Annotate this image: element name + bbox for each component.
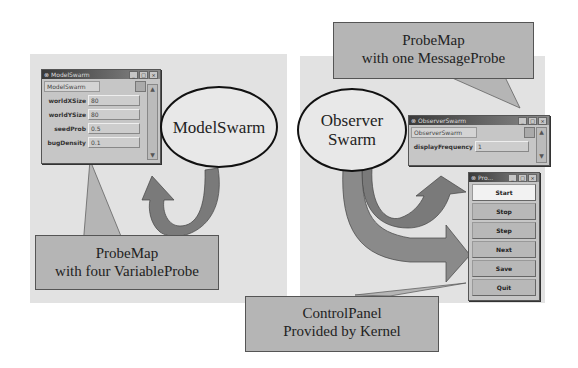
minimize-button[interactable]: _ [518,117,527,125]
stop-button[interactable]: Stop [472,203,536,220]
modelswarm-probe-window: ⊗ ModelSwarm _ □ × ModelSwarm worldXSize… [41,69,161,164]
minimize-button[interactable]: _ [508,174,517,182]
quit-button[interactable]: Quit [472,279,536,296]
scroll-up-icon[interactable]: ▲ [537,128,546,136]
variable-probe-row: seedProb 0.5 [44,122,144,135]
window-menu-icon[interactable]: ⊗ [411,117,416,124]
window-menu-icon[interactable]: ⊗ [44,71,49,78]
window-titlebar[interactable]: ⊗ ModelSwarm _ □ × [42,70,160,79]
window-menu-icon[interactable]: ⊗ [471,174,476,181]
scroll-down-icon[interactable]: ▼ [148,151,157,159]
scroll-down-icon[interactable]: ▼ [537,152,546,160]
maximize-button[interactable]: □ [139,71,148,79]
variable-label: worldYSize [44,111,86,118]
start-button[interactable]: Start [472,184,536,201]
bottom-callout-tail [355,283,466,296]
vertical-scrollbar[interactable]: ▲ ▼ [536,127,547,163]
close-button[interactable]: × [149,71,158,79]
callout-line2: with one MessageProbe [334,49,533,67]
window-titlebar[interactable]: ⊗ Pro... _ □ × [469,173,539,182]
close-button[interactable]: × [528,174,537,182]
variable-label: bugDensity [44,139,86,146]
superclass-button[interactable] [135,81,146,92]
class-name-field[interactable]: ModelSwarm [44,81,100,92]
variable-field[interactable]: 80 [88,109,140,120]
variable-probe-row: displayFrequency 1 [411,140,535,153]
observerswarm-probe-window: ⊗ ObserverSwarm _ □ × ObserverSwarm disp… [408,115,550,166]
window-title: Pro... [478,174,507,181]
minimize-button[interactable]: _ [129,71,138,79]
step-button[interactable]: Step [472,222,536,239]
variable-field[interactable]: 1 [475,141,529,152]
observer-swarm-ellipse: Observer Swarm [297,88,407,172]
top-callout-tail [450,77,520,108]
callout-line1: ProbeMap [334,23,533,49]
variable-label: displayFrequency [411,143,473,150]
window-title: ModelSwarm [51,71,128,78]
next-button[interactable]: Next [472,241,536,258]
callout-line2: with four VariableProbe [36,262,218,280]
right-curved-arrow [362,168,466,228]
variable-field[interactable]: 0.1 [88,137,140,148]
scroll-up-icon[interactable]: ▲ [148,85,157,93]
variable-probe-row: worldXSize 80 [44,94,144,107]
superclass-button[interactable] [524,127,535,138]
variable-label: worldXSize [44,97,86,104]
observer-label-line1: Observer [321,111,383,130]
variable-label: seedProb [44,125,86,132]
window-title: ObserverSwarm [418,117,517,124]
callout-line1: ProbeMap [36,238,218,262]
modelswarm-ellipse: ModelSwarm [160,86,278,168]
callout-line1: ControlPanel [246,297,438,322]
variable-probe-row: bugDensity 0.1 [44,136,144,149]
vertical-scrollbar[interactable]: ▲ ▼ [147,84,158,160]
top-callout: ProbeMap with one MessageProbe [333,22,534,79]
maximize-button[interactable]: □ [528,117,537,125]
modelswarm-label: ModelSwarm [173,118,266,137]
variable-field[interactable]: 80 [88,95,140,106]
variable-field[interactable]: 0.5 [88,123,140,134]
maximize-button[interactable]: □ [518,174,527,182]
left-callout-tail [83,160,125,246]
left-curved-arrow [142,168,219,236]
observer-label-line2: Swarm [321,130,383,149]
left-callout: ProbeMap with four VariableProbe [35,235,219,290]
callout-line2: Provided by Kernel [246,322,438,340]
class-name-field[interactable]: ObserverSwarm [411,127,477,138]
control-panel-window: ⊗ Pro... _ □ × Start Stop Step Next Save… [468,172,540,301]
variable-probe-row: worldYSize 80 [44,108,144,121]
bottom-callout: ControlPanel Provided by Kernel [245,296,439,352]
window-titlebar[interactable]: ⊗ ObserverSwarm _ □ × [409,116,549,125]
save-button[interactable]: Save [472,260,536,277]
close-button[interactable]: × [538,117,547,125]
